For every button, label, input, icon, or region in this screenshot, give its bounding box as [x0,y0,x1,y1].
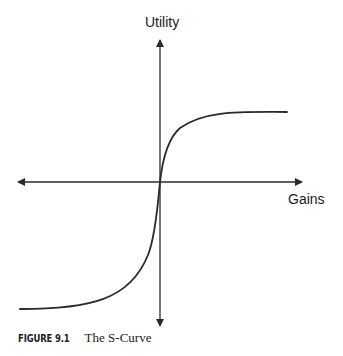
y-axis-label: Utility [145,14,179,30]
x-axis-label: Gains [288,191,325,207]
figure-caption: FIGURE 9.1The S-Curve [18,328,151,346]
s-curve-line [20,112,287,309]
figure-number: FIGURE 9.1 [18,333,70,344]
s-curve-chart [0,0,343,356]
figure-title: The S-Curve [85,330,152,345]
